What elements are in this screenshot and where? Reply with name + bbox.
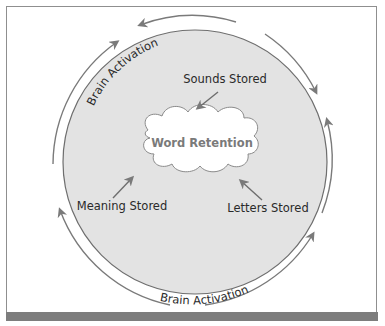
meaning-stored-label: Meaning Stored <box>77 199 167 213</box>
arrow-top-icon <box>140 16 236 25</box>
letters-stored-label: Letters Stored <box>227 201 308 215</box>
diagram-canvas: Brain Activation Brain Activation Word R… <box>0 0 385 326</box>
word-retention-label: Word Retention <box>151 136 253 150</box>
sounds-stored-label: Sounds Stored <box>183 72 267 86</box>
